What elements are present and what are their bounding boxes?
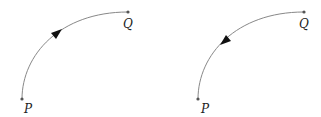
left-label-q: Q [123, 17, 133, 31]
right-arrow-icon [220, 35, 231, 45]
left-point-q [126, 10, 129, 13]
right-label-p: P [200, 102, 210, 116]
left-diagram: P Q [20, 10, 133, 116]
left-arrow-icon [51, 29, 62, 39]
right-point-q [302, 10, 305, 13]
right-diagram: P Q [196, 10, 309, 116]
left-point-p [20, 97, 23, 100]
figure: P Q P Q [0, 0, 321, 117]
right-arc [198, 12, 304, 99]
right-point-p [196, 97, 199, 100]
left-label-p: P [23, 102, 33, 116]
right-label-q: Q [299, 17, 309, 31]
left-arc [22, 12, 128, 99]
